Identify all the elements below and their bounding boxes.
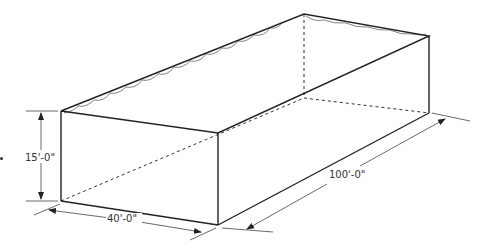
length-dimension: 100'-0" [222,113,470,232]
hidden-edges [61,14,429,201]
tank-diagram: 15'-0" 40'-0" 100'-0" [0,0,490,250]
width-dimension: 40'-0" [34,204,216,240]
visible-edges [61,14,429,225]
height-dimension: 15'-0" [24,111,58,201]
height-label: 15'-0" [25,152,55,163]
length-label: 100'-0" [329,169,365,180]
width-label: 40'-0" [107,213,137,224]
rim-scallops [64,16,426,113]
